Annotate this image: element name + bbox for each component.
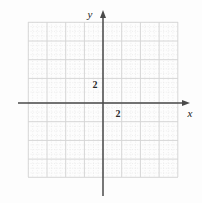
- coordinate-plane-svg: y x 2 2: [0, 0, 202, 203]
- coordinate-grid-figure: y x 2 2: [0, 0, 202, 203]
- x-axis-label: x: [187, 107, 193, 119]
- y-axis-tick-label-2: 2: [93, 79, 98, 90]
- figure-background: [0, 0, 202, 203]
- y-axis-label: y: [87, 8, 93, 20]
- x-axis-tick-label-2: 2: [116, 108, 121, 119]
